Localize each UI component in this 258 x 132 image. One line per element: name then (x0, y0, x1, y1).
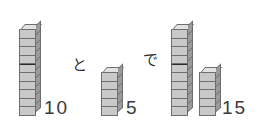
unit-cube (19, 29, 36, 39)
unit-cube (171, 46, 188, 56)
unit-cube (199, 81, 216, 91)
unit-cube (171, 38, 188, 48)
cube-tower-five-middle (101, 73, 118, 116)
unit-cube (19, 38, 36, 48)
cube-tower-five-right (199, 73, 216, 116)
unit-cube (171, 63, 188, 73)
unit-cube (171, 98, 188, 108)
unit-cube (171, 81, 188, 91)
cube-tower-ten-right (171, 30, 188, 116)
unit-cube (101, 89, 118, 99)
unit-cube (101, 106, 118, 116)
unit-cube (199, 72, 216, 82)
unit-cube (171, 106, 188, 116)
unit-cube (171, 72, 188, 82)
numeral-label-five: 5 (126, 98, 139, 117)
unit-cube (199, 98, 216, 108)
kana-label-de: で (143, 53, 158, 68)
unit-cube (19, 63, 36, 73)
unit-cube (101, 81, 118, 91)
unit-cube (199, 89, 216, 99)
unit-cube (19, 72, 36, 82)
unit-cube (199, 106, 216, 116)
unit-cube (101, 72, 118, 82)
unit-cube (19, 106, 36, 116)
numeral-label-fifteen: 15 (222, 98, 247, 117)
unit-cube (101, 98, 118, 108)
unit-cube (171, 29, 188, 39)
unit-cube (171, 55, 188, 65)
unit-cube (171, 89, 188, 99)
unit-cube (19, 55, 36, 65)
unit-cube (19, 98, 36, 108)
unit-cube (19, 89, 36, 99)
cube-tower-ten-left (19, 30, 36, 116)
unit-cube (19, 46, 36, 56)
kana-label-to: と (72, 58, 87, 73)
unit-cube (19, 81, 36, 91)
worksheet-illustration: 10 5 15 と で (0, 0, 258, 132)
numeral-label-ten: 10 (44, 98, 69, 117)
